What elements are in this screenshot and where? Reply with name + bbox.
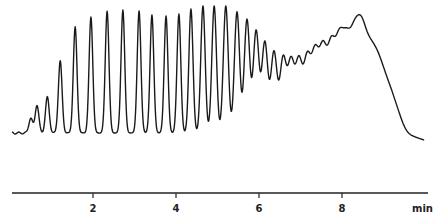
x-tick-label: 4	[173, 203, 180, 214]
x-tick-label: 8	[339, 203, 346, 214]
chromatogram-chart: 2468 min	[0, 0, 439, 219]
x-axis-ticks: 2468	[90, 193, 346, 214]
x-tick-label: 6	[256, 203, 263, 214]
chromatogram-trace	[12, 6, 424, 140]
x-axis-label: min	[412, 203, 433, 214]
x-tick-label: 2	[90, 203, 97, 214]
